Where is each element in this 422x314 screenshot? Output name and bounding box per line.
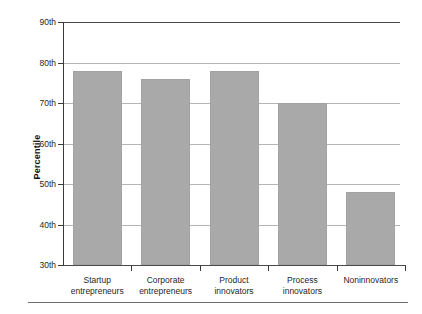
x-axis-label-line: Startup: [63, 275, 131, 286]
x-tick: [131, 265, 132, 271]
x-axis-label: Processinnovators: [268, 275, 336, 297]
bar: [346, 192, 395, 265]
gridline-90th: [63, 22, 400, 23]
bar: [278, 103, 327, 265]
x-axis-label: Productinnovators: [200, 275, 268, 297]
x-axis-label-line: Noninnovators: [337, 275, 405, 286]
y-tick-label-40th: 40th: [39, 220, 56, 229]
bar: [210, 71, 259, 265]
y-tick-90th: [58, 22, 64, 23]
x-axis-label-line: innovators: [200, 286, 268, 297]
x-tick: [200, 265, 201, 271]
gridline-30th: [63, 265, 405, 266]
x-axis-label-line: Process: [268, 275, 336, 286]
x-axis-label: Corporateentrepreneurs: [131, 275, 199, 297]
x-tick: [405, 265, 406, 271]
figure-bottom-rule: [28, 302, 408, 303]
y-tick-label-70th: 70th: [39, 99, 56, 108]
bar-chart-figure: Percentile 90th80th70th60th50th40th30thS…: [0, 0, 422, 314]
y-tick-40th: [58, 225, 64, 226]
plot-area: 90th80th70th60th50th40th30thStartupentre…: [63, 22, 405, 265]
y-tick-label-60th: 60th: [39, 139, 56, 148]
gridline-80th: [63, 63, 400, 64]
x-tick: [268, 265, 269, 271]
bar: [141, 79, 190, 265]
y-tick-30th: [58, 265, 64, 266]
x-axis-label-line: Product: [200, 275, 268, 286]
y-tick-label-50th: 50th: [39, 180, 56, 189]
x-axis-label: Startupentrepreneurs: [63, 275, 131, 297]
x-tick: [337, 265, 338, 271]
x-axis-label-line: entrepreneurs: [131, 286, 199, 297]
x-axis-label-line: innovators: [268, 286, 336, 297]
x-axis-label: Noninnovators: [337, 275, 405, 286]
x-axis-label-line: Corporate: [131, 275, 199, 286]
x-axis-label-line: entrepreneurs: [63, 286, 131, 297]
bar: [73, 71, 122, 265]
y-tick-70th: [58, 103, 64, 104]
y-tick-label-80th: 80th: [39, 58, 56, 67]
y-tick-label-90th: 90th: [39, 18, 56, 27]
y-tick-80th: [58, 63, 64, 64]
y-tick-50th: [58, 184, 64, 185]
y-tick-label-30th: 30th: [39, 261, 56, 270]
y-tick-60th: [58, 144, 64, 145]
